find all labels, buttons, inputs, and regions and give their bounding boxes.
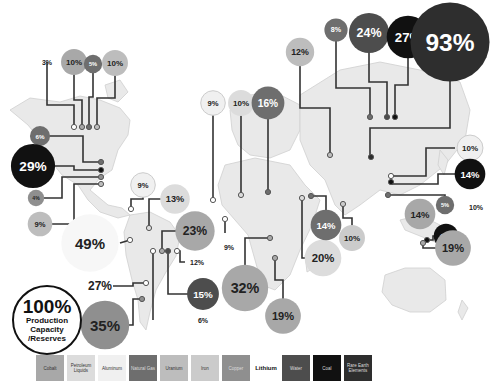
bubble-label: 10% [66, 58, 82, 67]
bubble-label: 5% [441, 202, 449, 208]
location-marker [174, 248, 179, 253]
legend-item-coal: Coal [313, 355, 341, 381]
legend: CobaltPetroleum LiquidsAluminumNatural G… [36, 354, 372, 382]
bubble-label: 3% [42, 59, 53, 66]
scale-key-line1: Production [26, 316, 68, 325]
scale-key-value: 100% [23, 297, 72, 316]
location-marker [388, 179, 393, 184]
bubble-label: 5% [89, 61, 97, 67]
bubble-label: 4% [32, 195, 40, 201]
bubble-label: 9% [138, 181, 149, 190]
bubble-label: 14% [316, 220, 336, 231]
location-marker [222, 216, 227, 221]
bubble-label: 20% [312, 252, 335, 264]
location-marker [143, 280, 148, 285]
legend-item-copper: Copper [222, 355, 250, 381]
location-marker [272, 255, 277, 260]
location-marker [98, 159, 103, 164]
bubble-label: 10% [344, 234, 360, 243]
location-marker [388, 173, 393, 178]
location-marker [308, 193, 313, 198]
legend-item-petroleum-liquids: Petroleum Liquids [67, 355, 95, 381]
bubble-label: 12% [190, 259, 205, 266]
bubble-label: 8% [331, 26, 342, 34]
bubble-label: 12% [291, 47, 309, 57]
location-marker [146, 225, 151, 230]
bubble-label: 9% [224, 244, 235, 251]
legend-item-iron: Iron [191, 355, 219, 381]
location-marker [94, 124, 99, 129]
location-marker [98, 174, 103, 179]
bubble-label: 19% [272, 310, 294, 322]
bubble-label: 6% [198, 317, 209, 324]
location-marker [368, 154, 373, 159]
bubble-label: 29% [19, 159, 46, 174]
bubble-label: 10% [462, 144, 478, 153]
scale-key-line3: /Reserves [28, 334, 66, 343]
bubble-label: 23% [183, 224, 208, 238]
legend-item-natural-gas: Natural Gas [129, 355, 157, 381]
location-marker [210, 197, 215, 202]
location-marker [384, 114, 389, 119]
location-marker [159, 248, 164, 253]
location-marker [238, 192, 243, 197]
bubble-label: 35% [90, 317, 120, 334]
location-marker [128, 206, 133, 211]
legend-item-aluminum: Aluminum [98, 355, 126, 381]
land-asia [300, 62, 470, 215]
bubble-label: 24% [357, 26, 382, 40]
location-marker [150, 248, 155, 253]
legend-item-uranium: Uranium [160, 355, 188, 381]
land-australia [382, 268, 446, 312]
location-marker [392, 114, 397, 119]
scale-key-line2: Capacity [30, 325, 63, 334]
bubble-label: 9% [35, 220, 46, 229]
legend-item-rare-earth: Rare Earth Elements [344, 355, 372, 381]
bubble-label: 19% [442, 242, 464, 254]
bubble-label: 16% [258, 98, 278, 109]
location-marker [127, 237, 132, 242]
legend-item-cobalt: Cobalt [36, 355, 64, 381]
location-marker [267, 235, 272, 240]
legend-item-water: Water [282, 355, 310, 381]
bubble-label: 93% [425, 29, 474, 56]
scale-key: 100% Production Capacity /Reserves [12, 285, 82, 355]
location-marker [367, 114, 372, 119]
bubble-label: 6% [36, 133, 45, 140]
location-marker [265, 189, 270, 194]
location-marker [71, 124, 76, 129]
location-marker [165, 248, 170, 253]
bubble-label: 32% [231, 280, 260, 296]
bubble-label: 14% [460, 169, 480, 180]
bubble-label: 49% [75, 235, 105, 252]
location-marker [340, 201, 345, 206]
location-marker [299, 195, 304, 200]
location-marker [420, 240, 425, 245]
land-new-zealand [458, 300, 468, 320]
bubble-label: 15% [193, 289, 213, 300]
bubble-label: 10% [107, 59, 123, 68]
location-marker [98, 181, 103, 186]
bubble-label: 13% [166, 194, 184, 204]
location-marker [139, 296, 144, 301]
bubble-label: 10% [469, 204, 484, 211]
location-marker [79, 124, 84, 129]
bubble-label: 9% [208, 99, 219, 108]
legend-item-lithium: Lithium [253, 355, 279, 381]
location-marker [327, 152, 332, 157]
location-marker [98, 167, 103, 172]
bubble-label: 27% [88, 279, 112, 293]
location-marker [86, 124, 91, 129]
bubble-label: 10% [233, 99, 249, 108]
location-marker [385, 192, 390, 197]
bubble-label: 14% [410, 209, 430, 220]
